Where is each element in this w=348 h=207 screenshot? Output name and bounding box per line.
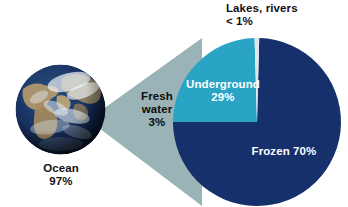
underground-label: Underground 29% — [180, 78, 266, 104]
ocean-label: Ocean 97% — [14, 162, 108, 188]
fresh-water-label: Fresh water 3% — [126, 90, 188, 129]
lakes-rivers-label: Lakes, rivers < 1% — [226, 2, 342, 28]
frozen-label: Frozen 70% — [236, 145, 332, 158]
infographic-canvas: Ocean 97% Fresh water 3% Lakes, rivers <… — [0, 0, 348, 207]
